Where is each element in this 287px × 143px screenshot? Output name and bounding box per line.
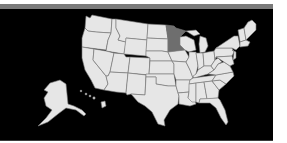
state-alaska[interactable]	[38, 80, 86, 126]
state-south-dakota[interactable]	[146, 38, 168, 52]
state-wyoming[interactable]	[124, 38, 147, 56]
state-washington[interactable]	[85, 15, 112, 33]
state-mississippi[interactable]	[188, 83, 196, 102]
state-north-dakota[interactable]	[147, 24, 168, 39]
state-hawaii[interactable]	[80, 90, 106, 108]
state-colorado[interactable]	[128, 57, 150, 75]
us-map	[0, 0, 287, 143]
state-new-mexico[interactable]	[126, 73, 146, 95]
state-florida[interactable]	[199, 98, 228, 125]
state-kansas[interactable]	[149, 61, 174, 74]
state-maine[interactable]	[244, 20, 256, 40]
state-new-york[interactable]	[216, 36, 240, 50]
state-arkansas[interactable]	[176, 80, 190, 93]
